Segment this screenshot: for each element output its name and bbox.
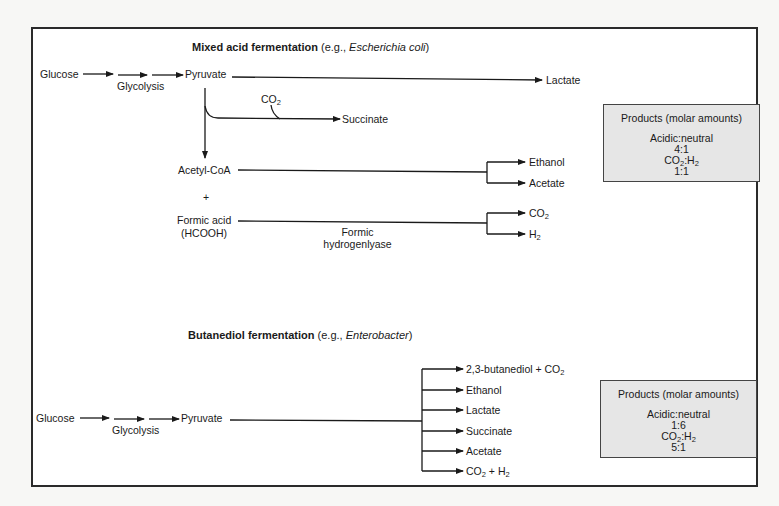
mixed-acid-products-box: Products (molar amounts) Acidic:neutral …	[603, 104, 760, 182]
acetyl-coa-label: Acetyl-CoA	[178, 165, 231, 176]
mixed-acid-title: Mixed acid fermentation (e.g., Escherich…	[192, 42, 429, 53]
butanediol-products-box: Products (molar amounts) Acidic:neutral …	[600, 380, 757, 458]
acidic-neutral-value: 1:6	[601, 420, 756, 431]
products-heading: Products (molar amounts)	[604, 113, 759, 124]
co2-input-label: CO2	[261, 94, 281, 105]
product-acetate: Acetate	[466, 446, 502, 457]
glycolysis-label: Glycolysis	[117, 81, 164, 92]
formic-hydrogenlyase-label: Formic hydrogenlyase	[310, 226, 405, 250]
product-lactate: Lactate	[466, 405, 500, 416]
ethanol-label: Ethanol	[529, 157, 565, 168]
product-butanediol: 2,3-butanediol + CO2	[466, 364, 564, 375]
product-ethanol: Ethanol	[466, 385, 502, 396]
hcooh-label: (HCOOH)	[181, 228, 227, 239]
glucose-label: Glucose	[36, 413, 75, 424]
formic-acid-label: Formic acid	[177, 215, 231, 226]
co2-product-label: CO2	[529, 208, 549, 219]
acetate-label: Acetate	[529, 178, 565, 189]
acidic-neutral-value: 4:1	[604, 144, 759, 155]
pyruvate-label: Pyruvate	[185, 69, 226, 80]
product-co2-h2: CO2 + H2	[466, 466, 510, 477]
glucose-label: Glucose	[40, 69, 79, 80]
butanediol-title: Butanediol fermentation (e.g., Enterobac…	[188, 330, 412, 341]
co2-h2-value: 1:1	[604, 166, 759, 177]
plus-sign: +	[203, 192, 209, 203]
co2-h2-value: 5:1	[601, 442, 756, 453]
h2-product-label: H2	[529, 229, 541, 240]
products-heading: Products (molar amounts)	[601, 389, 756, 400]
pyruvate-label: Pyruvate	[181, 413, 222, 424]
glycolysis-label: Glycolysis	[112, 425, 159, 436]
succinate-label: Succinate	[342, 114, 388, 125]
lactate-label: Lactate	[546, 75, 580, 86]
product-succinate: Succinate	[466, 426, 512, 437]
